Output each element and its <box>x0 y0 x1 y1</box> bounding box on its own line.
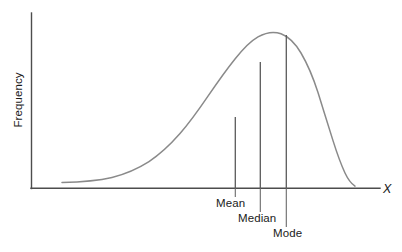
mode-label: Mode <box>273 227 302 239</box>
y-axis-label: Frequency <box>12 72 24 127</box>
mean-label: Mean <box>216 197 245 209</box>
distribution-curve <box>62 32 355 186</box>
median-label: Median <box>238 212 276 224</box>
chart-container: Mean Median Mode Frequency X <box>0 0 402 252</box>
x-axis-label: X <box>382 182 392 196</box>
skewed-distribution-chart: Mean Median Mode Frequency X <box>0 0 402 252</box>
